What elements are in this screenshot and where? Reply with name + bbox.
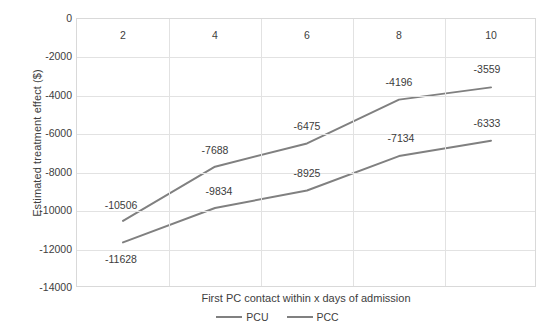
data-point-label: -9834 [206, 185, 233, 197]
legend-label: PCC [317, 311, 339, 323]
x-axis-tick-label: 10 [485, 29, 497, 41]
legend-item-pcc[interactable]: PCC [287, 311, 339, 323]
x-axis-tick-label: 8 [396, 29, 402, 41]
legend-line-swatch [287, 316, 313, 318]
x-axis-tick-label: 2 [120, 29, 126, 41]
horizontal-gridline [77, 250, 535, 251]
horizontal-gridline [77, 211, 535, 212]
y-axis-tick-label: -4000 [6, 89, 76, 101]
data-point-label: -3559 [474, 63, 501, 75]
y-axis-tick-labels: 0-2000-4000-6000-8000-10000-12000-14000 [0, 0, 76, 334]
y-axis-tick-label: -8000 [6, 166, 76, 178]
series-lines [77, 19, 537, 288]
series-line-pcc [123, 141, 491, 243]
vertical-gridline [353, 19, 354, 286]
data-point-label: -11628 [105, 253, 137, 265]
y-axis-tick-label: -2000 [6, 50, 76, 62]
x-axis-tick-label: 4 [212, 29, 218, 41]
series-line-pcu [123, 87, 491, 220]
vertical-gridline [169, 19, 170, 286]
chart-legend: PCUPCC [0, 311, 555, 323]
data-point-label: -6475 [294, 120, 321, 132]
data-point-label: -4196 [386, 76, 413, 88]
line-chart: Estimated treatment effect ($) 0-2000-40… [0, 0, 555, 334]
data-point-label: -7688 [202, 144, 229, 156]
x-axis-tick-label: 6 [304, 29, 310, 41]
legend-label: PCU [246, 311, 268, 323]
legend-item-pcu[interactable]: PCU [216, 311, 268, 323]
horizontal-gridline [77, 57, 535, 58]
plot-area: 246810-10506-7688-6475-4196-3559-11628-9… [76, 18, 536, 287]
data-point-label: -7134 [388, 132, 415, 144]
data-point-label: -10506 [105, 199, 138, 211]
horizontal-gridline [77, 134, 535, 135]
data-point-label: -6333 [474, 117, 501, 129]
vertical-gridline [445, 19, 446, 286]
y-axis-tick-label: -10000 [6, 204, 76, 216]
x-axis-title: First PC contact within x days of admiss… [76, 292, 536, 304]
vertical-gridline [261, 19, 262, 286]
y-axis-tick-label: -12000 [6, 243, 76, 255]
y-axis-tick-label: -14000 [6, 281, 76, 293]
legend-line-swatch [216, 316, 242, 318]
y-axis-tick-label: -6000 [6, 127, 76, 139]
horizontal-gridline [77, 96, 535, 97]
y-axis-tick-label: 0 [6, 12, 76, 24]
data-point-label: -8925 [294, 167, 321, 179]
